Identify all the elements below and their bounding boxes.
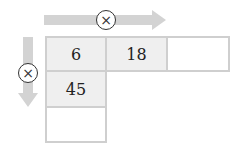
cell-r0c0: 6 [45,36,107,72]
cell-r0c1: 18 [105,36,168,72]
multiply-icon-vertical: × [18,63,38,83]
horizontal-arrow-head-icon [152,10,166,30]
cell-r2c0[interactable] [45,106,107,143]
vertical-arrow-head-icon [18,93,38,107]
multiply-icon-horizontal: × [96,10,116,30]
cell-r1c0: 45 [45,70,107,108]
cell-r0c2[interactable] [166,36,230,72]
